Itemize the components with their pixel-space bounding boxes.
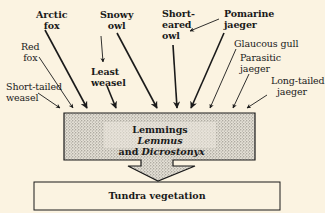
arrow-least-weasel (107, 86, 116, 108)
lemmings-title: Lemmings (104, 124, 216, 135)
label-glaucous-gull: Glaucous gull (234, 38, 298, 49)
label-least-weasel: Least weasel (91, 66, 126, 88)
arrow-pomarine-jaeger (191, 33, 224, 108)
arrow-long-tailed-jaeger (247, 95, 267, 108)
lemmings-genera: Lemmus and Dicrostonyx (104, 135, 216, 157)
arrow-short-eared-owl (173, 45, 177, 108)
arrow-snowy-owl-to-least-weasel (101, 36, 103, 62)
label-short-eared-owl: Short- eared owl (162, 8, 195, 41)
lemmings-label: Lemmings Lemmus and Dicrostonyx (104, 124, 216, 157)
label-red-fox: Red fox (21, 41, 40, 63)
label-pomarine-jaeger: Pomarine jaeger (224, 8, 274, 30)
label-snowy-owl: Snowy owl (100, 9, 133, 31)
tundra-label: Tundra vegetation (34, 190, 280, 201)
label-short-tailed-weasel: Short-tailed weasel (6, 81, 62, 103)
label-long-tailed-jaeger: Long-tailed jaeger (271, 75, 325, 97)
arrow-parasitic-jaeger (233, 74, 249, 108)
label-arctic-fox: Arctic fox (36, 9, 67, 31)
label-parasitic-jaeger: Parasitic jaeger (240, 52, 281, 74)
